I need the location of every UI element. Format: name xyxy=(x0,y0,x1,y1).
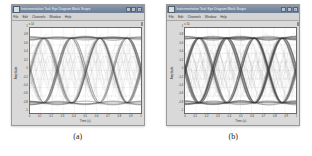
window-a: Instrumentation Tool: Eye Diagram Block … xyxy=(11,4,145,126)
y-axis-label-text-b: Amplitude xyxy=(170,67,174,79)
minimize-button[interactable]: _ xyxy=(126,7,131,12)
close-button[interactable]: × xyxy=(137,7,142,12)
titlebar-a[interactable]: Instrumentation Tool: Eye Diagram Block … xyxy=(12,5,144,13)
y-axis-label-b: Amplitude xyxy=(168,22,175,124)
y-axis-label-a: Amplitude xyxy=(13,22,20,124)
eye-diagram-plot-a[interactable] xyxy=(29,27,142,114)
window-b: Instrumentation Tool: Eye Diagram Block … xyxy=(166,4,300,126)
window-title-a: Instrumentation Tool: Eye Diagram Block … xyxy=(21,7,126,12)
scope-icon xyxy=(168,6,175,13)
menu-item-help[interactable]: Help xyxy=(65,14,72,20)
figure-row: Instrumentation Tool: Eye Diagram Block … xyxy=(0,0,311,156)
window-buttons-b: _ □ × xyxy=(281,7,298,12)
menu-item-edit[interactable]: Edit xyxy=(178,14,184,20)
x-axis-label-b: Time (s) xyxy=(184,119,297,124)
y-axis-label-text-a: Amplitude xyxy=(14,67,18,79)
axes-row-a: 1 0.8 0.6 0.4 0.2 0 -0.2 -0.4 -0.6 -0.8 xyxy=(20,27,142,114)
menu-item-window[interactable]: Window xyxy=(205,14,216,20)
maximize-button[interactable]: □ xyxy=(287,7,292,12)
caption-a: (a) xyxy=(73,132,82,141)
x-axis-label-a: Time (s) xyxy=(29,119,142,124)
axes-row-b: 1 0.8 0.6 0.4 0.2 0 -0.2 -0.4 -0.6 -0.8 xyxy=(175,27,297,114)
plot-inner-a: Amplitude x 10 1 0.8 0.6 0.4 0.2 0 xyxy=(13,22,142,124)
minimize-button[interactable]: _ xyxy=(281,7,286,12)
eye-diagram-svg-a xyxy=(30,28,141,113)
close-button[interactable]: × xyxy=(293,7,298,12)
y-tick-labels-a: 1 0.8 0.6 0.4 0.2 0 -0.2 -0.4 -0.6 -0.8 xyxy=(20,27,29,114)
menu-item-edit[interactable]: Edit xyxy=(22,14,28,20)
axes-column-b: x 10 1 0.8 0.6 0.4 0.2 0 -0.2 -0.4 xyxy=(175,22,297,124)
figure-panel-b: Instrumentation Tool: Eye Diagram Block … xyxy=(156,0,312,156)
scope-icon xyxy=(13,6,20,13)
plot-inner-b: Amplitude x 10 1 0.8 0.6 0.4 0.2 0 xyxy=(168,22,297,124)
plot-shell-a: Amplitude x 10 1 0.8 0.6 0.4 0.2 0 xyxy=(12,21,144,125)
menu-item-channels[interactable]: Channels xyxy=(187,14,200,20)
menu-item-file[interactable]: File xyxy=(13,14,18,20)
eye-diagram-svg-b xyxy=(185,28,296,113)
menu-item-help[interactable]: Help xyxy=(220,14,227,20)
menu-item-window[interactable]: Window xyxy=(49,14,60,20)
axes-column-a: x 10 1 0.8 0.6 0.4 0.2 0 -0.2 -0.4 xyxy=(20,22,142,124)
plot-shell-b: Amplitude x 10 1 0.8 0.6 0.4 0.2 0 xyxy=(167,21,299,125)
menubar-b: File Edit Channels Window Help xyxy=(167,13,299,21)
menubar-a: File Edit Channels Window Help xyxy=(12,13,144,21)
figure-panel-a: Instrumentation Tool: Eye Diagram Block … xyxy=(0,0,156,156)
y-tick-labels-b: 1 0.8 0.6 0.4 0.2 0 -0.2 -0.4 -0.6 -0.8 xyxy=(175,27,184,114)
caption-b: (b) xyxy=(229,132,238,141)
window-title-b: Instrumentation Tool: Eye Diagram Block … xyxy=(176,7,281,12)
window-buttons-a: _ □ × xyxy=(126,7,143,12)
titlebar-b[interactable]: Instrumentation Tool: Eye Diagram Block … xyxy=(167,5,299,13)
eye-diagram-plot-b[interactable] xyxy=(184,27,297,114)
maximize-button[interactable]: □ xyxy=(131,7,136,12)
menu-item-channels[interactable]: Channels xyxy=(32,14,45,20)
menu-item-file[interactable]: File xyxy=(169,14,174,20)
